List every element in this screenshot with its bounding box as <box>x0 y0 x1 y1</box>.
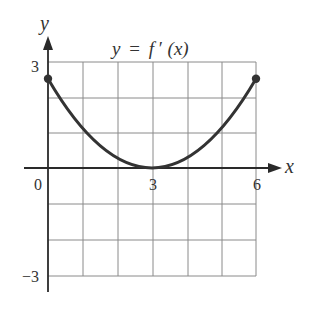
y-axis-label: y <box>38 12 49 35</box>
derivative-graph: y = f ′ (x) y x 0 3 6 3 −3 <box>0 0 312 310</box>
x-tick-0: 0 <box>34 176 42 193</box>
y-tick-3: 3 <box>31 58 39 75</box>
x-axis-label: x <box>284 155 294 177</box>
x-tick-3: 3 <box>149 176 157 193</box>
y-tick-neg3: −3 <box>22 268 39 285</box>
derivative-curve <box>48 79 256 168</box>
x-axis-arrow-icon <box>268 163 282 173</box>
y-axis-arrow-icon <box>43 36 53 50</box>
left-endpoint-dot <box>44 75 52 83</box>
x-tick-6: 6 <box>253 176 261 193</box>
chart-title: y = f ′ (x) <box>110 38 189 60</box>
right-endpoint-dot <box>252 75 260 83</box>
